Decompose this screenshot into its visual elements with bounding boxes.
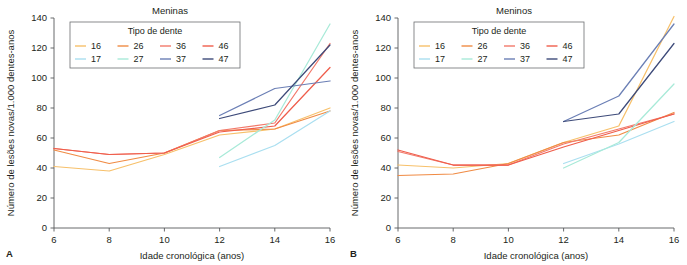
x-tick-label: 14 — [614, 234, 625, 245]
legend-label-46: 46 — [563, 41, 573, 51]
data-line-46 — [398, 114, 674, 165]
y-tick-label: 0 — [386, 222, 391, 233]
plot-group-b: 0204060801001201406810121416Idade cronol… — [349, 5, 679, 261]
data-line-16 — [54, 108, 330, 171]
legend-label-17: 17 — [91, 54, 101, 64]
y-tick-label: 20 — [380, 192, 391, 203]
y-tick-label: 60 — [380, 132, 391, 143]
y-tick-label: 40 — [36, 162, 47, 173]
legend-label-27: 27 — [134, 54, 144, 64]
chart-panel-a: 0204060801001201406810121416Idade cronol… — [0, 0, 343, 265]
chart-svg-a: 0204060801001201406810121416Idade cronol… — [0, 0, 343, 265]
x-tick-label: 8 — [451, 234, 456, 245]
legend-label-47: 47 — [219, 54, 229, 64]
x-tick-label: 16 — [669, 234, 680, 245]
y-tick-label: 0 — [42, 222, 47, 233]
x-tick-label: 8 — [107, 234, 112, 245]
x-tick-label: 14 — [270, 234, 281, 245]
x-tick-label: 6 — [395, 234, 400, 245]
legend-label-37: 37 — [176, 54, 186, 64]
y-tick-label: 100 — [375, 72, 391, 83]
y-axis-title: Número de lesões novas/1.000 dentes-anos — [349, 30, 360, 217]
y-tick-label: 120 — [375, 42, 391, 53]
legend-label-46: 46 — [219, 41, 229, 51]
x-tick-label: 10 — [159, 234, 170, 245]
panel-letter: A — [6, 248, 13, 259]
x-axis-title: Idade cronológica (anos) — [140, 250, 245, 261]
chart-panel-b: 0204060801001201406810121416Idade cronol… — [344, 0, 687, 265]
y-tick-label: 60 — [36, 132, 47, 143]
y-axis-title: Número de lesões novas/1.000 dentes-anos — [5, 30, 16, 217]
panel-title: Meninas — [152, 5, 188, 16]
panel-letter: B — [350, 248, 357, 259]
y-tick-label: 40 — [380, 162, 391, 173]
x-tick-label: 12 — [214, 234, 225, 245]
chart-svg-b: 0204060801001201406810121416Idade cronol… — [344, 0, 687, 265]
x-tick-label: 6 — [51, 234, 56, 245]
data-line-37 — [220, 81, 330, 116]
legend-title: Tipo de dente — [472, 26, 527, 36]
plot-group-a: 0204060801001201406810121416Idade cronol… — [5, 5, 335, 261]
y-tick-label: 20 — [36, 192, 47, 203]
legend-label-37: 37 — [520, 54, 530, 64]
y-tick-label: 80 — [380, 102, 391, 113]
x-axis-title: Idade cronológica (anos) — [484, 250, 589, 261]
data-line-36 — [398, 114, 674, 165]
x-tick-label: 16 — [325, 234, 336, 245]
y-tick-label: 140 — [375, 12, 391, 23]
y-tick-label: 100 — [31, 72, 47, 83]
x-tick-label: 12 — [558, 234, 569, 245]
figure-container: 0204060801001201406810121416Idade cronol… — [0, 0, 687, 265]
legend-label-26: 26 — [478, 41, 488, 51]
legend-label-36: 36 — [176, 41, 186, 51]
y-tick-label: 120 — [31, 42, 47, 53]
legend-label-16: 16 — [435, 41, 445, 51]
y-tick-label: 80 — [36, 102, 47, 113]
data-line-26 — [398, 113, 674, 176]
legend-label-16: 16 — [91, 41, 101, 51]
legend-label-47: 47 — [563, 54, 573, 64]
legend-label-17: 17 — [435, 54, 445, 64]
y-tick-label: 140 — [31, 12, 47, 23]
legend-title: Tipo de dente — [128, 26, 183, 36]
legend-label-36: 36 — [520, 41, 530, 51]
x-tick-label: 10 — [503, 234, 514, 245]
panel-title: Meninos — [496, 5, 532, 16]
legend-label-27: 27 — [478, 54, 488, 64]
legend-label-26: 26 — [134, 41, 144, 51]
